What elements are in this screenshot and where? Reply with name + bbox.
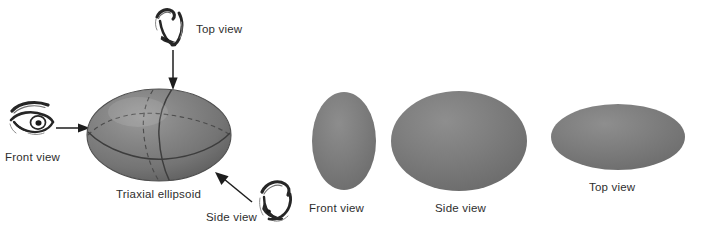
projection-ellipse-side-view (390, 90, 530, 192)
projection-label-side-view: Side view (435, 203, 486, 215)
projection-label-top-view: Top view (589, 182, 635, 194)
projection-label-front-view: Front view (309, 203, 364, 215)
projection-ellipse-top-view (550, 103, 687, 171)
viewpoint-label-front-view: Front view (5, 152, 60, 164)
projection-ellipse-front-view (311, 91, 377, 192)
figure-triaxial-ellipsoid-views: Top view (0, 0, 709, 231)
eye-icon-front-view (8, 100, 56, 138)
viewpoint-label-side-view: Side view (206, 212, 257, 224)
viewpoint-label-top-view: Top view (196, 24, 242, 36)
arrow-top-view (162, 50, 184, 92)
arrow-side-view (210, 168, 254, 204)
eye-icon-top-view (148, 6, 190, 50)
triaxial-ellipsoid-caption: Triaxial ellipsoid (116, 189, 201, 201)
